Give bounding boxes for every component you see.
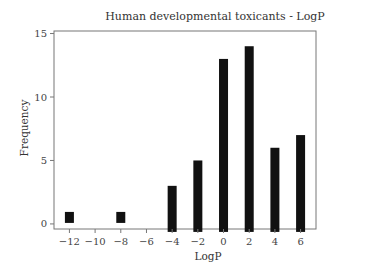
x-tick-label: −6	[139, 236, 154, 247]
x-tick-label: −10	[85, 236, 106, 247]
x-tick-label: 2	[246, 236, 252, 247]
x-tick-label: −12	[59, 236, 80, 247]
bar-0	[219, 59, 228, 232]
y-axis-label: Frequency	[18, 100, 30, 157]
x-tick-label: 6	[297, 236, 303, 247]
y-tick-label: 15	[34, 28, 47, 39]
bar-4	[270, 148, 279, 232]
x-tick-label: −4	[165, 236, 180, 247]
bar--4	[168, 186, 177, 232]
chart-title: Human developmental toxicants - LogP	[105, 10, 325, 23]
bar-2	[245, 46, 254, 232]
x-axis-label: LogP	[194, 250, 221, 262]
bar--8	[116, 212, 125, 223]
x-tick-label: −2	[190, 236, 205, 247]
x-tick-label: −8	[113, 236, 128, 247]
y-tick-label: 10	[34, 92, 47, 103]
x-tick-label: 0	[220, 236, 226, 247]
x-tick-label: 4	[272, 236, 278, 247]
bar--2	[193, 160, 202, 231]
y-tick-label: 0	[41, 218, 47, 229]
bar-6	[296, 135, 305, 232]
bar--12	[65, 212, 74, 223]
y-tick-label: 5	[41, 155, 47, 166]
chart: Human developmental toxicants - LogP −12…	[0, 0, 379, 278]
